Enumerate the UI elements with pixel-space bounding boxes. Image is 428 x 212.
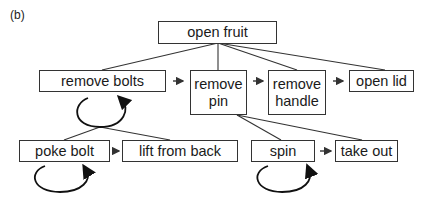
hierarchy-lines-remove-bolts <box>64 127 170 140</box>
node-remove-bolts: remove bolts <box>39 70 166 92</box>
node-label: remove bolts <box>61 73 144 90</box>
node-spin: spin <box>251 140 315 162</box>
node-poke-bolt: poke bolt <box>19 140 110 162</box>
node-label-line1: remove <box>273 76 321 93</box>
node-lift-from-back: lift from back <box>122 140 238 162</box>
node-label: lift from back <box>139 143 221 160</box>
node-open-fruit: open fruit <box>158 21 277 44</box>
node-label-line2: pin <box>209 93 228 110</box>
node-label-line1: remove <box>194 76 242 93</box>
node-remove-handle: remove handle <box>268 70 326 115</box>
loop-arrow-icon <box>35 166 88 192</box>
node-open-lid: open lid <box>349 70 414 92</box>
node-label: poke bolt <box>35 143 94 160</box>
hierarchy-lines-remove-pin <box>237 115 362 140</box>
node-label: open fruit <box>187 24 247 41</box>
node-take-out: take out <box>335 140 398 162</box>
node-label: spin <box>270 143 297 160</box>
node-label: take out <box>341 143 393 160</box>
node-remove-pin: remove pin <box>190 70 247 115</box>
hierarchy-lines-root <box>102 43 385 70</box>
node-label: open lid <box>356 73 407 90</box>
loop-arrow-icon <box>77 98 125 127</box>
node-label-line2: handle <box>275 93 319 110</box>
task-hierarchy-diagram: (b) <box>0 0 428 212</box>
loop-arrow-icon <box>257 166 310 192</box>
